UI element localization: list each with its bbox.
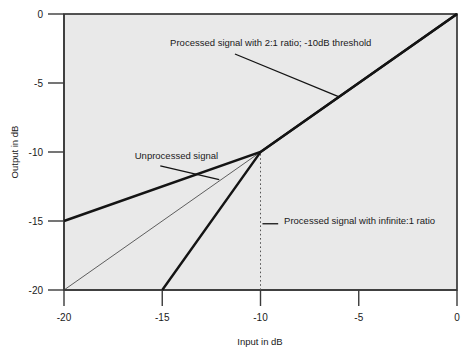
annot-infinite-label: Processed signal with infinite:1 ratio xyxy=(284,215,435,226)
y-tick-label: -15 xyxy=(29,216,44,227)
x-axis-title: Input in dB xyxy=(237,336,282,347)
x-tick-label: -15 xyxy=(155,312,170,323)
chart-canvas: -20-15-10-50 -20-15-10-50 Processed sign… xyxy=(0,0,473,353)
y-tick-label: -5 xyxy=(34,78,43,89)
x-tick-label: -10 xyxy=(253,312,268,323)
x-axis-tick-labels: -20-15-10-50 xyxy=(57,312,460,323)
annot-2to1-label: Processed signal with 2:1 ratio; -10dB t… xyxy=(170,37,371,48)
annot-unprocessed-label: Unprocessed signal xyxy=(135,150,218,161)
y-axis-tick-labels: -20-15-10-50 xyxy=(29,9,44,296)
y-tick-label: 0 xyxy=(37,9,43,20)
compressor-transfer-curve-chart: -20-15-10-50 -20-15-10-50 Processed sign… xyxy=(0,0,473,353)
x-tick-label: 0 xyxy=(454,312,460,323)
y-axis-title: Output in dB xyxy=(9,126,20,179)
x-tick-label: -5 xyxy=(354,312,363,323)
x-tick-label: -20 xyxy=(57,312,72,323)
x-axis-ticks xyxy=(64,290,457,306)
y-tick-label: -10 xyxy=(29,147,44,158)
y-axis-ticks xyxy=(48,14,64,290)
y-tick-label: -20 xyxy=(29,285,44,296)
